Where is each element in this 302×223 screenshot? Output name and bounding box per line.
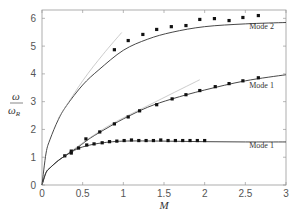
data-point	[137, 139, 140, 142]
data-point	[171, 97, 174, 100]
x-tick-label: 1	[121, 188, 127, 199]
y-tick-label: 0	[30, 180, 36, 191]
mode-label: Mode 1	[249, 141, 274, 150]
data-point	[141, 33, 144, 36]
data-point	[170, 25, 173, 28]
data-point	[198, 18, 201, 21]
data-point	[115, 140, 118, 143]
y-axis-title: ω ωR	[8, 90, 23, 118]
data-point	[227, 19, 230, 22]
data-point	[184, 24, 187, 27]
y-tick-label: 6	[30, 13, 36, 24]
data-point	[92, 142, 95, 145]
x-tick-label: 0	[39, 188, 45, 199]
x-tick-label: 0.5	[76, 188, 90, 199]
x-tick-label: 2.5	[238, 188, 252, 199]
data-point	[257, 76, 260, 79]
data-point	[98, 130, 101, 133]
data-point	[166, 139, 169, 142]
data-point	[70, 151, 73, 154]
data-point	[188, 139, 191, 142]
data-point	[241, 79, 244, 82]
x-tick-label: 1.5	[157, 188, 171, 199]
x-tick-label: 3	[283, 188, 289, 199]
data-point	[113, 48, 116, 51]
tangent-line	[66, 80, 199, 155]
data-point	[113, 122, 116, 125]
series-layer	[42, 14, 286, 185]
data-point	[241, 16, 244, 19]
data-point	[155, 103, 158, 106]
x-axis-title: M	[158, 199, 169, 211]
data-point	[127, 115, 130, 118]
data-point	[123, 139, 126, 142]
mode-label: Mode 1	[249, 81, 274, 90]
theory-curve	[42, 75, 286, 185]
y-tick-label: 3	[30, 96, 36, 107]
data-point	[198, 89, 201, 92]
data-point	[101, 141, 104, 144]
data-point	[85, 143, 88, 146]
data-point	[196, 139, 199, 142]
data-point	[138, 109, 141, 112]
data-point	[77, 146, 80, 149]
y-axis-title-denominator: ωR	[8, 104, 21, 118]
axis-ticks: 00.511.522.530123456	[30, 10, 289, 199]
chart: 00.511.522.530123456 Mode 2Mode 1Mode 1 …	[0, 0, 302, 223]
y-tick-label: 2	[30, 124, 36, 135]
mode-label: Mode 2	[249, 22, 274, 31]
data-point	[108, 140, 111, 143]
data-point	[181, 139, 184, 142]
data-point	[152, 139, 155, 142]
data-point	[227, 82, 230, 85]
theory-curve	[42, 23, 286, 186]
mode-labels: Mode 2Mode 1Mode 1	[249, 22, 274, 149]
data-point	[203, 139, 206, 142]
data-point	[145, 139, 148, 142]
y-tick-label: 1	[30, 152, 36, 163]
data-point	[174, 139, 177, 142]
data-point	[257, 14, 260, 17]
x-tick-label: 2	[202, 188, 208, 199]
data-point	[130, 138, 133, 141]
data-point	[213, 17, 216, 20]
tangent-line	[58, 33, 121, 119]
data-point	[159, 138, 162, 141]
y-tick-label: 5	[30, 41, 36, 52]
data-point	[155, 28, 158, 31]
data-point	[184, 93, 187, 96]
data-point	[214, 85, 217, 88]
data-point	[127, 39, 130, 42]
y-tick-label: 4	[30, 68, 36, 79]
data-point	[84, 137, 87, 140]
y-axis-title-numerator: ω	[12, 90, 20, 102]
